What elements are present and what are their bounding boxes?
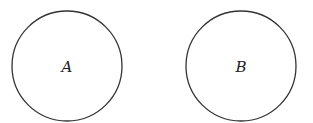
circle-b-label: B	[234, 58, 246, 76]
diagram-canvas: A B	[0, 0, 313, 123]
circle-a-label: A	[60, 58, 73, 76]
